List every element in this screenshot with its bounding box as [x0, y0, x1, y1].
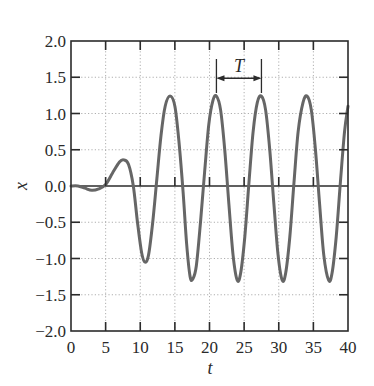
x-tick-label: 30	[270, 338, 287, 357]
x-tick-label: 40	[340, 338, 357, 357]
period-annotation: T	[216, 56, 261, 93]
x-tick-label: 15	[166, 338, 183, 357]
y-tick-labels: 2.01.51.00.50.0−0.5−1.0−1.5−2.0	[35, 32, 66, 341]
x-tick-label: 10	[132, 338, 149, 357]
x-tick-label: 5	[101, 338, 110, 357]
y-tick-label: 0.0	[45, 177, 66, 196]
y-tick-label: 2.0	[45, 32, 66, 51]
x-tick-label: 25	[236, 338, 253, 357]
x-tick-labels: 0510152025303540	[67, 338, 357, 357]
y-tick-label: −0.5	[35, 213, 66, 232]
y-tick-label: 1.5	[45, 68, 66, 87]
x-axis-label: t	[207, 358, 213, 378]
arrowhead-left-icon	[216, 75, 224, 81]
series-line-x-of-t	[71, 95, 348, 281]
y-axis-label: x	[11, 182, 31, 191]
y-tick-label: 1.0	[45, 105, 66, 124]
y-tick-label: −1.5	[35, 286, 66, 305]
x-tick-label: 35	[305, 338, 322, 357]
y-tick-label: −1.0	[35, 250, 66, 269]
period-label: T	[234, 56, 246, 76]
x-tick-label: 20	[201, 338, 218, 357]
arrowhead-right-icon	[253, 75, 261, 81]
chart-canvas: 0510152025303540 2.01.51.00.50.0−0.5−1.0…	[0, 0, 374, 386]
y-tick-label: −2.0	[35, 322, 66, 341]
y-tick-label: 0.5	[45, 141, 66, 160]
x-tick-label: 0	[67, 338, 76, 357]
